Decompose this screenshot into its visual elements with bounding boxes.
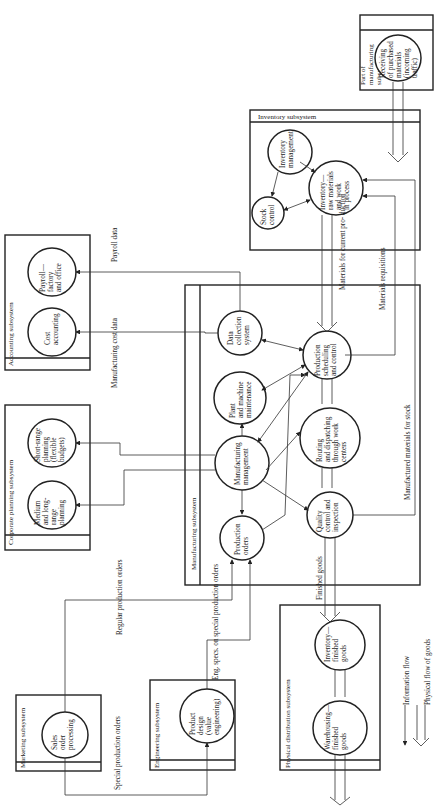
engineering-subsystem: Engineering subsystem Productdesign(valu… xyxy=(150,680,235,770)
svg-text:Special production orders: Special production orders xyxy=(114,716,122,790)
corporate-planning-title: Corporate planning subsystem xyxy=(7,459,15,545)
accounting-subsystem: Accounting subsystem Payroll—factoryand … xyxy=(5,235,90,370)
physical-distribution-subsystem: Physical distribution subsystem Inventor… xyxy=(280,605,380,770)
svg-text:Physical flow of goods: Physical flow of goods xyxy=(424,639,432,705)
receiving-subsystem: Part ofmanufacturingsubsystem Receivingo… xyxy=(359,15,433,90)
system-flow-diagram: Accounting subsystem Payroll—factoryand … xyxy=(0,0,438,807)
svg-text:Regular production orders: Regular production orders xyxy=(116,559,124,635)
svg-text:Information flow: Information flow xyxy=(403,655,411,705)
accounting-title: Accounting subsystem xyxy=(7,302,15,366)
svg-text:Materials for current pro- duc: Materials for current pro- duction xyxy=(339,193,347,290)
manufacturing-subsystem: Manufacturing subsystem Datacollectionsy… xyxy=(185,285,420,585)
svg-text:Manufacturing cost data: Manufacturing cost data xyxy=(111,317,119,388)
svg-text:Finished goods: Finished goods xyxy=(316,556,324,600)
manufacturing-title: Manufacturing subsystem xyxy=(190,497,198,570)
inventory-title: Inventory subsystem xyxy=(258,113,317,121)
svg-text:Payroll data: Payroll data xyxy=(111,227,119,262)
physical-distribution-title: Physical distribution subsystem xyxy=(284,679,292,768)
corporate-planning-subsystem: Corporate planning subsystem Short-range… xyxy=(5,405,90,550)
marketing-title: Marketing subsystem xyxy=(19,707,27,768)
svg-text:Materials requisitions: Materials requisitions xyxy=(379,247,387,310)
flow-labels: Payroll data Manufacturing cost data Reg… xyxy=(111,193,412,790)
svg-text:Manufacturingmanagement: Manufacturingmanagement xyxy=(234,442,250,485)
svg-text:Manufactured materials for sto: Manufactured materials for stock xyxy=(404,404,412,500)
svg-text:Productionschedulingand contro: Productionschedulingand control xyxy=(314,343,338,376)
marketing-subsystem: Marketing subsystem Salesorderprocessing xyxy=(16,695,101,771)
engineering-title: Engineering subsystem xyxy=(153,702,161,768)
svg-text:Eng. specs. on special product: Eng. specs. on special production orders xyxy=(212,564,220,680)
legend: Information flow Physical flow of goods xyxy=(403,639,432,746)
